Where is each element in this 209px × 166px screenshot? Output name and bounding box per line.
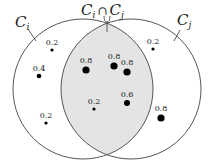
- data-point: [37, 74, 42, 79]
- data-point-value: 0.2: [40, 111, 53, 120]
- data-point: [44, 121, 47, 124]
- data-point: [151, 47, 154, 50]
- intersection-label: Ci∩Cj: [81, 1, 124, 20]
- data-point: [124, 100, 130, 106]
- data-point-value: 0.4: [33, 64, 46, 73]
- data-point: [82, 66, 89, 73]
- data-point-value: 0.8: [80, 56, 93, 65]
- data-point: [110, 62, 117, 69]
- data-point: [92, 107, 95, 110]
- set-cj-label: Cj: [177, 11, 191, 30]
- intersection-region: [61, 19, 201, 159]
- data-point-value: 0.8: [108, 52, 121, 61]
- data-point-value: 0.2: [46, 38, 59, 47]
- data-point-value: 0.8: [155, 104, 168, 113]
- data-point: [157, 114, 164, 121]
- data-point-value: 0.6: [121, 90, 134, 99]
- data-point: [123, 68, 130, 75]
- data-point-value: 0.2: [88, 97, 101, 106]
- data-point-value: 0.2: [147, 37, 160, 46]
- cj-pointer-arrow: [174, 30, 180, 41]
- data-point-value: 0.8: [121, 58, 134, 67]
- data-point: [50, 48, 53, 51]
- ci-pointer-arrow: [28, 29, 36, 41]
- venn-diagram: Ci Cj Ci∩Cj 0.20.40.20.80.80.80.20.60.20…: [0, 0, 209, 166]
- set-ci-label: Ci: [15, 13, 29, 32]
